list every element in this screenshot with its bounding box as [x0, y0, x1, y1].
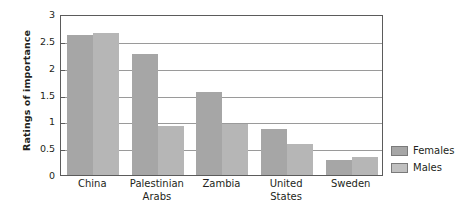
y-axis-tick-label: 3 — [49, 10, 55, 20]
y-axis-tick-label: 0 — [49, 171, 55, 181]
y-axis-title-text: Ratings of importance — [22, 29, 33, 150]
y-axis-tick-label: 2 — [49, 64, 55, 74]
legend-item: Females — [391, 142, 475, 159]
bar-males — [222, 124, 248, 175]
bar-chart: Ratings of importance 00.511.522.53 Chin… — [0, 0, 475, 215]
x-axis-tick-label: United States — [254, 178, 319, 203]
y-axis-tick-label: 1.5 — [40, 91, 55, 101]
bar-groups — [61, 16, 382, 175]
bar-group — [61, 16, 126, 175]
x-axis-tick-labels: ChinaPalestinian ArabsZambiaUnited State… — [60, 178, 383, 214]
bar-females — [196, 92, 222, 175]
bar-males — [158, 126, 184, 175]
y-axis-tick-label: 2.5 — [40, 37, 55, 47]
y-axis-tick-labels: 00.511.522.53 — [36, 15, 58, 176]
y-axis-tick-label: 0.5 — [40, 144, 55, 154]
bar-group — [319, 16, 384, 175]
x-axis-tick-label: China — [60, 178, 125, 191]
bar-group — [126, 16, 191, 175]
x-axis-tick-label: Palestinian Arabs — [125, 178, 190, 203]
legend-swatch-icon — [391, 163, 408, 173]
legend-swatch-icon — [391, 146, 408, 156]
legend-item: Males — [391, 159, 475, 176]
x-axis-tick-label: Sweden — [318, 178, 383, 191]
bar-group — [190, 16, 255, 175]
y-axis-tick-label: 1 — [49, 118, 55, 128]
bar-group — [255, 16, 320, 175]
bar-males — [93, 33, 119, 175]
legend-label: Females — [413, 146, 454, 156]
bar-females — [67, 35, 93, 175]
plot-area — [60, 15, 383, 176]
y-axis-title: Ratings of importance — [18, 0, 36, 180]
bar-females — [326, 160, 352, 175]
x-axis-tick-label: Zambia — [189, 178, 254, 191]
legend-label: Males — [413, 163, 442, 173]
bar-females — [132, 54, 158, 175]
bar-males — [352, 157, 378, 175]
bar-males — [287, 144, 313, 175]
chart-legend: FemalesMales — [391, 142, 475, 176]
bar-females — [261, 129, 287, 175]
